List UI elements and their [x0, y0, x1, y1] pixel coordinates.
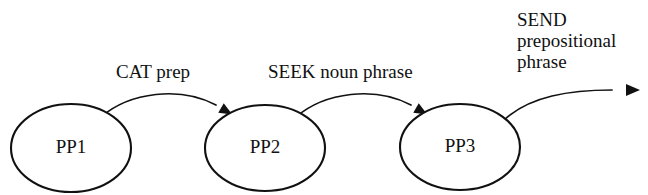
- edge-label-pp2-pp3: SEEK noun phrase: [268, 61, 413, 82]
- edge-path-pp3-exit: [504, 90, 612, 120]
- node-pp1[interactable]: PP1: [11, 104, 131, 192]
- edge-path-pp2-pp3: [296, 94, 411, 117]
- edge-label-line-1: SEND: [517, 9, 567, 30]
- edge-label-pp1-pp2: CAT prep: [116, 61, 190, 82]
- fsm-canvas: CAT prep SEEK noun phrase SEND prepositi…: [0, 0, 648, 195]
- node-pp3-label: PP3: [445, 135, 476, 156]
- edge-label-line-2: prepositional: [517, 30, 616, 51]
- arrowhead-pp3-exit: [626, 84, 640, 96]
- edge-pp1-pp2: CAT prep: [101, 61, 235, 119]
- node-pp1-label: PP1: [56, 136, 87, 157]
- edge-path-pp1-pp2: [101, 94, 216, 117]
- edge-label-pp3-exit: SEND prepositional phrase: [517, 9, 621, 72]
- node-pp2[interactable]: PP2: [205, 105, 325, 191]
- node-pp2-label: PP2: [250, 136, 281, 157]
- edge-label-line-3: phrase: [517, 51, 567, 72]
- fsm-diagram: CAT prep SEEK noun phrase SEND prepositi…: [0, 0, 648, 195]
- node-pp3[interactable]: PP3: [400, 104, 520, 190]
- edge-pp3-exit: SEND prepositional phrase: [504, 9, 640, 120]
